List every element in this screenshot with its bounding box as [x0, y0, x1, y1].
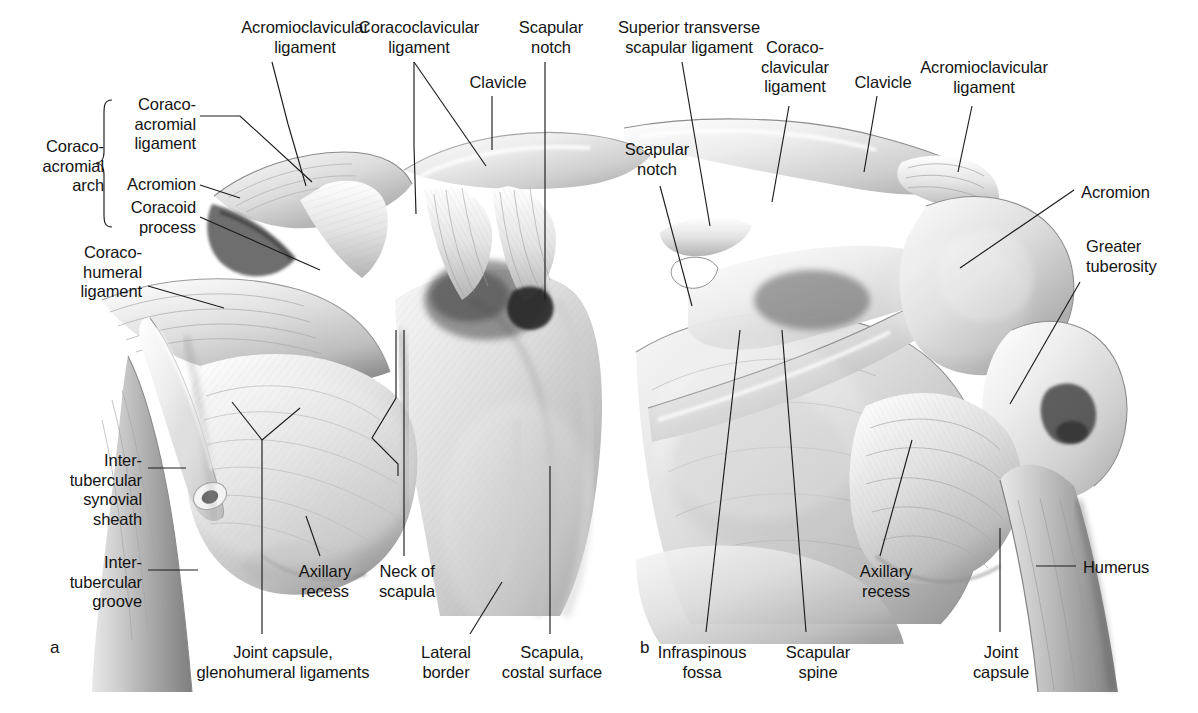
label-intertubercular-groove: Inter- tubercular groove	[70, 553, 142, 612]
label-coracoid-process: Coracoid process	[131, 198, 196, 237]
label-scapular-spine: Scapular spine	[786, 643, 850, 682]
label-clavicle-a: Clavicle	[470, 73, 527, 93]
label-intertubercular-synovial-sheath: Inter- tubercular synovial sheath	[70, 451, 142, 529]
label-lateral-border: Lateral border	[421, 643, 471, 682]
label-acromioclavicular-ligament-b: Acromioclavicular ligament	[920, 58, 1048, 97]
label-acromion-b: Acromion	[1081, 183, 1150, 203]
label-coracoacromial-arch: Coraco- acromial arch	[42, 137, 104, 196]
label-axillary-recess-b: Axillary recess	[860, 562, 912, 601]
label-scapular-notch-b: Scapular notch	[625, 140, 689, 179]
panel-letter-b: b	[640, 638, 649, 658]
label-joint-capsule-b: Joint capsule	[973, 643, 1029, 682]
label-coracoacromial-ligament: Coraco- acromial ligament	[134, 95, 196, 154]
label-greater-tuberosity: Greater tuberosity	[1086, 237, 1157, 276]
label-neck-of-scapula: Neck of scapula	[379, 562, 435, 601]
label-acromioclavicular-ligament-a: Acromioclavicular ligament	[241, 18, 369, 57]
label-superior-transverse-scapular-ligament: Superior transverse scapular ligament	[618, 18, 760, 57]
label-axillary-recess-a: Axillary recess	[299, 562, 351, 601]
anatomy-plate: Coraco- acromial arch Coraco- acromial l…	[0, 0, 1198, 713]
panel-b-artwork	[624, 119, 1127, 692]
label-acromion-a: Acromion	[127, 175, 196, 195]
label-scapular-notch-a: Scapular notch	[519, 18, 583, 57]
label-clavicle-b: Clavicle	[855, 73, 912, 93]
label-coracohumeral-ligament: Coraco- humeral ligament	[80, 243, 142, 302]
label-infraspinous-fossa: Infraspinous fossa	[658, 643, 747, 682]
panel-letter-a: a	[50, 638, 59, 658]
label-coracoclavicular-ligament-b: Coraco- clavicular ligament	[761, 38, 829, 97]
label-scapula-costal-surface: Scapula, costal surface	[502, 643, 602, 682]
label-joint-capsule-glenohumeral-ligaments: Joint capsule, glenohumeral ligaments	[197, 643, 370, 682]
label-humerus: Humerus	[1083, 558, 1149, 578]
label-coracoclavicular-ligament-a: Coracoclavicular ligament	[359, 18, 479, 57]
